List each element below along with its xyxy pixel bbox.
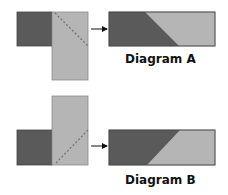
light-rectangle [52,12,88,80]
diagram-a [17,12,215,80]
diagram-b-label: Diagram B [125,173,196,187]
diagram-b [17,96,215,165]
diagram-a-label: Diagram A [125,52,196,66]
dark-square [17,130,52,165]
diagram-canvas [0,0,228,195]
dark-square [17,12,52,46]
light-rectangle [52,96,88,165]
